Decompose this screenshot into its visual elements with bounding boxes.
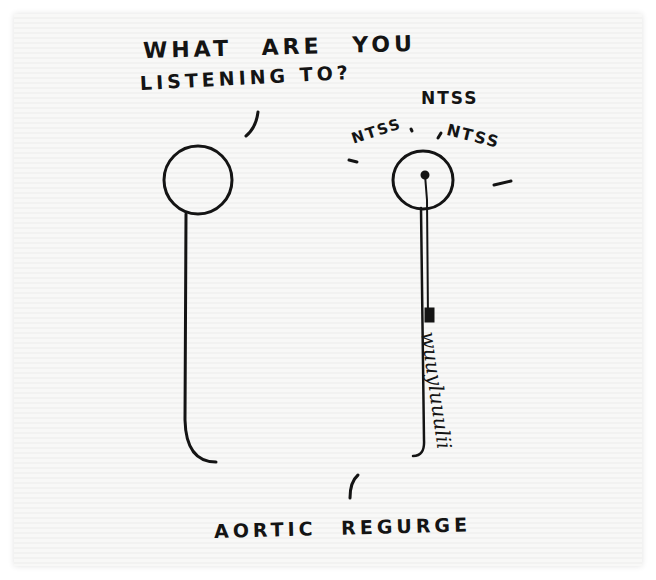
caption-tick — [350, 475, 358, 498]
left-figure-body — [185, 214, 216, 462]
right-figure-head — [393, 151, 453, 209]
sound-mark-mid1 — [411, 129, 412, 131]
stethoscope-chestpiece — [425, 308, 434, 322]
sound-mark-right — [494, 181, 511, 185]
stethoscope-earpiece — [422, 172, 428, 178]
speech-tick — [246, 112, 258, 136]
cartoon-drawing — [0, 0, 656, 580]
sound-mark-mid2 — [438, 133, 441, 138]
sound-text-top: NTSS — [421, 88, 479, 108]
left-figure-head — [164, 146, 232, 214]
stethoscope-tube — [425, 175, 428, 318]
sound-mark-left — [349, 160, 357, 162]
